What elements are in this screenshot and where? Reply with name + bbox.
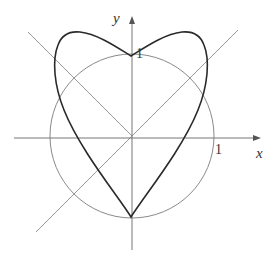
y-axis-label: y: [111, 10, 120, 26]
x-axis-label: x: [255, 145, 263, 161]
x-tick-label-1: 1: [215, 142, 222, 157]
y-tick-label-1: 1: [136, 46, 143, 61]
diagram: x y 1 1: [0, 0, 277, 263]
heart-curve: [55, 32, 208, 217]
x-axis-arrow-icon: [253, 135, 261, 141]
y-axis-arrow-icon: [129, 16, 135, 24]
